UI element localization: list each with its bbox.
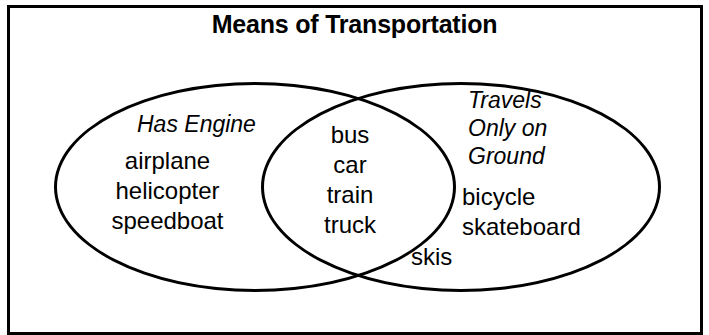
list-item: truck xyxy=(285,210,415,240)
list-item: train xyxy=(285,180,415,210)
list-item: bicycle xyxy=(462,182,602,212)
right-set-label-line: Only on xyxy=(468,114,547,142)
list-item: skateboard xyxy=(462,212,602,242)
right-set-label-line: Ground xyxy=(468,142,547,170)
list-item: speedboat xyxy=(60,206,275,236)
list-item: airplane xyxy=(60,146,275,176)
page-title: Means of Transportation xyxy=(0,10,709,39)
right-set-label-line: Travels xyxy=(468,86,547,114)
right-set-items: bicycle skateboard xyxy=(462,182,602,242)
right-set-items-extra: skis xyxy=(411,242,531,272)
list-item: helicopter xyxy=(60,176,275,206)
list-item: skis xyxy=(411,242,531,272)
left-set-label: Has Engine xyxy=(137,110,256,138)
list-item: car xyxy=(285,150,415,180)
left-set-items: airplane helicopter speedboat xyxy=(60,146,275,236)
list-item: bus xyxy=(285,120,415,150)
right-set-label: Travels Only on Ground xyxy=(468,86,547,170)
intersection-items: bus car train truck xyxy=(285,120,415,240)
